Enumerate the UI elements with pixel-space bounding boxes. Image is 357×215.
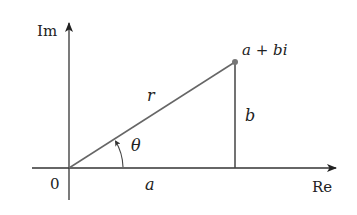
point-label: a + bi — [242, 43, 287, 58]
point-marker — [232, 59, 238, 65]
origin-label: 0 — [50, 177, 60, 192]
angle-label: θ — [131, 138, 141, 154]
real-part-label: a — [145, 177, 155, 193]
real-axis-label: Re — [312, 180, 332, 195]
complex-plane-diagram: Im Re 0 a + bi r b a θ — [0, 0, 357, 215]
modulus-segment — [69, 62, 235, 168]
modulus-label: r — [147, 88, 155, 104]
imaginary-axis-label: Im — [37, 24, 57, 39]
angle-arc — [116, 141, 124, 167]
imaginary-part-label: b — [245, 108, 255, 124]
